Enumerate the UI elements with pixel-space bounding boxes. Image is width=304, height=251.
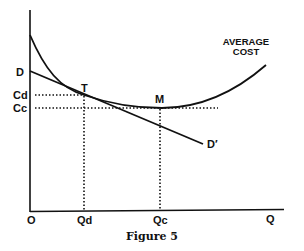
- figure-caption: Figure 5: [126, 230, 178, 243]
- demand-end-label: D′: [207, 138, 218, 150]
- cc-label: Cc: [13, 102, 27, 114]
- qc-label: Qc: [153, 214, 168, 226]
- x-axis-label: Q: [266, 213, 275, 225]
- origin-label: O: [27, 214, 36, 226]
- demand-start-label: D: [16, 66, 24, 78]
- average-cost-diagram: D D′ T M Cd Cc AVERAGE COST O Qd Qc Q Fi…: [0, 0, 304, 251]
- x-axis: [30, 210, 284, 212]
- cd-label: Cd: [13, 89, 28, 101]
- qd-label: Qd: [77, 214, 92, 226]
- curve-label-line2: COST: [233, 46, 260, 57]
- tangency-label: T: [81, 82, 88, 94]
- minimum-label: M: [155, 93, 164, 105]
